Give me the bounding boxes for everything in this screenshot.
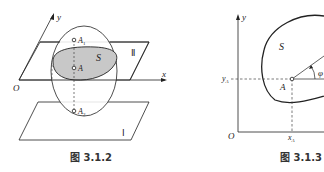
svg-text:yA: yA — [221, 74, 230, 84]
svg-text:Ⅰ: Ⅰ — [122, 128, 125, 138]
svg-text:图 3.1.2: 图 3.1.2 — [70, 152, 112, 163]
figure-3-1-3: y O S A yA xA φ 图 3.1.3 — [221, 12, 324, 163]
svg-text:A: A — [77, 64, 83, 73]
svg-text:O: O — [228, 131, 235, 141]
svg-text:y: y — [241, 12, 246, 22]
svg-text:x: x — [161, 69, 166, 79]
svg-text:A: A — [279, 82, 286, 92]
svg-text:S: S — [96, 52, 101, 63]
point-a-2 — [290, 77, 294, 81]
caption-3-1-3: 图 3.1.3 — [280, 152, 322, 163]
svg-text:xA: xA — [287, 133, 296, 143]
svg-text:y: y — [56, 12, 61, 22]
caption-3-1-2: 图 3.1.2 — [70, 152, 112, 163]
svg-text:Ⅱ: Ⅱ — [131, 48, 135, 58]
diagram-canvas: y x O S A1 A A2 Ⅱ Ⅰ 图 3.1.2 y O S A yA x — [0, 0, 324, 172]
region-s-2 — [262, 15, 324, 102]
svg-text:O: O — [13, 83, 20, 93]
svg-text:φ: φ — [318, 68, 323, 78]
point-a1 — [72, 38, 76, 42]
point-a — [72, 66, 76, 70]
svg-text:图 3.1.3: 图 3.1.3 — [280, 152, 322, 163]
point-a2 — [72, 109, 76, 113]
figure-3-1-2: y x O S A1 A A2 Ⅱ Ⅰ 图 3.1.2 — [13, 12, 167, 163]
svg-text:S: S — [279, 41, 284, 52]
y-axis — [19, 15, 53, 80]
